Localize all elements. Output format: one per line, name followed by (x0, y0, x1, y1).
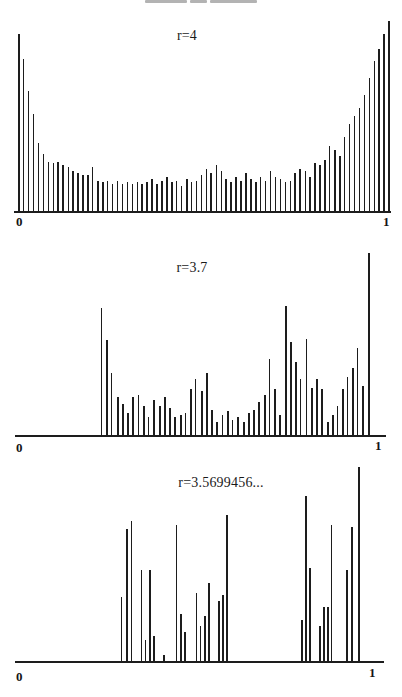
histogram-bar (68, 167, 70, 211)
artifact-segment (190, 0, 207, 3)
histogram-bar (196, 181, 198, 211)
histogram-bar (201, 175, 203, 211)
histogram-bar (237, 417, 239, 435)
histogram-bar (258, 402, 260, 435)
histogram-bar (121, 597, 123, 661)
histogram-bar (232, 420, 234, 435)
histogram-bar (359, 108, 361, 211)
histogram-bar (184, 632, 186, 661)
histogram-bar (196, 593, 198, 661)
histogram-bar (159, 406, 161, 435)
histogram-bar (122, 184, 124, 211)
histogram-bar (28, 91, 30, 211)
histogram-bar (347, 377, 349, 435)
chart3-x-axis (15, 661, 384, 663)
histogram-bar (316, 379, 318, 435)
histogram-bar (208, 583, 210, 661)
histogram-bar (106, 340, 108, 435)
histogram-bar (301, 620, 303, 661)
histogram-bar (285, 306, 287, 435)
histogram-bar (195, 379, 197, 435)
chart2-tick-0: 0 (16, 441, 23, 454)
histogram-bar (181, 186, 183, 211)
histogram-bar (354, 116, 356, 211)
histogram-bar (324, 160, 326, 211)
histogram-bar (264, 395, 266, 435)
histogram-bar (141, 570, 143, 661)
histogram-bar (337, 406, 339, 435)
histogram-bar (186, 179, 188, 211)
histogram-bar (295, 362, 297, 435)
histogram-bar (243, 422, 245, 435)
histogram-bar (23, 59, 25, 211)
histogram-bar (305, 496, 307, 661)
histogram-bar (180, 614, 182, 661)
histogram-bar (222, 415, 224, 435)
histogram-bar (176, 181, 178, 211)
histogram-bar (117, 181, 119, 211)
histogram-bar (153, 636, 155, 661)
histogram-bar (305, 171, 307, 211)
histogram-bar (290, 181, 292, 211)
histogram-bar (240, 181, 242, 211)
histogram-bar (127, 182, 129, 211)
chart3-tick-1: 1 (369, 666, 376, 679)
histogram-bar (309, 568, 311, 661)
histogram-bar (339, 156, 341, 211)
histogram-bar (323, 607, 325, 661)
artifact-segment (210, 0, 257, 3)
histogram-bar (358, 467, 360, 661)
histogram-bar (321, 389, 323, 435)
histogram-bar (378, 49, 380, 211)
histogram-bar (299, 169, 301, 211)
histogram-bar (351, 527, 353, 661)
histogram-bar (216, 165, 218, 211)
histogram-bar (334, 150, 336, 211)
histogram-bar (294, 173, 296, 211)
histogram-bar (344, 137, 346, 211)
histogram-bar (141, 184, 143, 211)
histogram-bar (102, 182, 104, 211)
histogram-bar (364, 95, 366, 211)
histogram-bar (300, 379, 302, 435)
histogram-bar (38, 143, 40, 211)
histogram-bar (201, 391, 203, 435)
scanned-figure-page: r=4 0 1 r=3.7 0 1 r=3.5699456... 0 1 (0, 0, 402, 697)
histogram-bar (185, 413, 187, 435)
histogram-bar (151, 179, 153, 211)
histogram-bar (349, 124, 351, 211)
histogram-bar (311, 388, 313, 435)
histogram-bar (117, 397, 119, 435)
chart3-tick-0: 0 (16, 670, 23, 683)
histogram-bar (33, 114, 35, 211)
histogram-bar (253, 410, 255, 435)
histogram-bar (43, 154, 45, 211)
histogram-bar (306, 339, 308, 435)
histogram-bar (222, 595, 224, 661)
histogram-bar (107, 181, 109, 211)
chart1-tick-1: 1 (383, 215, 390, 228)
histogram-bar (143, 406, 145, 435)
histogram-bar (248, 413, 250, 435)
histogram-bar (211, 410, 213, 435)
histogram-bar (221, 171, 223, 211)
histogram-bar (126, 529, 128, 661)
histogram-bar (171, 182, 173, 211)
histogram-bar (87, 175, 89, 211)
histogram-bar (374, 61, 376, 211)
histogram-bar (357, 348, 359, 435)
histogram-bar (112, 184, 114, 211)
histogram-bar (131, 521, 133, 661)
histogram-bar (62, 165, 64, 211)
histogram-bar (269, 359, 271, 435)
histogram-bar (255, 182, 257, 211)
histogram-bar (206, 169, 208, 211)
histogram-bar (319, 165, 321, 211)
histogram-bar (383, 34, 385, 211)
chart1-plot-area (15, 21, 390, 211)
histogram-bar (388, 21, 390, 211)
histogram-bar (275, 177, 277, 211)
histogram-bar (227, 411, 229, 435)
histogram-bar (176, 525, 178, 661)
histogram-bar (164, 397, 166, 435)
